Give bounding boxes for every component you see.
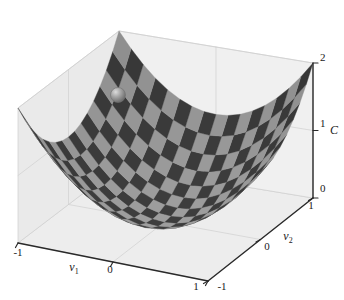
ball-marker [111, 88, 126, 103]
z-tick-0: 0 [320, 182, 326, 194]
x-tick-neg1: -1 [13, 246, 22, 258]
surface-plot-figure: -1 0 1 -1 0 1 0 1 2 v1 v2 C [0, 0, 344, 300]
z-tick-2: 2 [320, 51, 326, 63]
z-axis-title: C [330, 123, 339, 137]
plot-canvas: -1 0 1 -1 0 1 0 1 2 v1 v2 C [0, 0, 344, 300]
y-tick-neg1: -1 [217, 280, 226, 292]
y-tick-1: 1 [308, 199, 314, 211]
x-tick-0: 0 [107, 263, 113, 275]
x-tick-1: 1 [193, 280, 199, 292]
z-tick-1: 1 [320, 117, 326, 129]
ball-marker-sphere [111, 88, 126, 103]
y-tick-0: 0 [264, 240, 270, 252]
